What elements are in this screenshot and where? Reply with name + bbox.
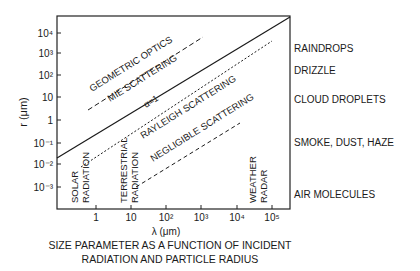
particle-label-air-molecules: AIR MOLECULES xyxy=(294,189,375,200)
x-tick-label: 10 xyxy=(125,212,137,223)
terrestrial-radiation-label-2: RADIATION xyxy=(129,152,140,203)
x-tick-label: 10⁴ xyxy=(229,212,244,223)
y-tick-label: 10⁻³ xyxy=(34,182,54,193)
x-tick-label: 10⁵ xyxy=(264,212,279,223)
solar-radiation-label-1: SOLAR xyxy=(69,171,80,203)
y-tick-label: 10⁻¹ xyxy=(34,138,54,149)
y-tick-label: 10⁻² xyxy=(34,159,54,170)
y-tick-label: 10³ xyxy=(39,48,54,59)
y-axis-label: r (μm) xyxy=(17,97,29,127)
caption-line-1: SIZE PARAMETER AS A FUNCTION OF INCIDENT xyxy=(48,239,292,251)
x-ticks xyxy=(96,205,272,209)
particle-label-cloud-droplets: CLOUD DROPLETS xyxy=(294,94,386,105)
particle-label-raindrops: RAINDROPS xyxy=(294,43,354,54)
y-tick-label: 10 xyxy=(42,92,54,103)
x-tick-label: 10² xyxy=(159,212,174,223)
weather-radar-label-1: WEATHER xyxy=(247,156,258,203)
y-tick-label: 10⁴ xyxy=(38,28,53,39)
alpha-1-label: α=1 xyxy=(142,93,160,110)
y-tick-label: 10² xyxy=(39,70,54,81)
weather-radar-label-2: RADAR xyxy=(258,170,269,203)
solar-radiation-label-2: RADIATION xyxy=(80,152,91,203)
particle-label-drizzle: DRIZZLE xyxy=(294,65,336,76)
x-tick-label: 1 xyxy=(93,212,99,223)
caption-line-2: RADIATION AND PARTICLE RADIUS xyxy=(82,253,259,265)
x-axis-label: λ (μm) xyxy=(152,226,181,237)
size-parameter-diagram: 10⁴ 10³ 10² 10 1 10⁻¹ 10⁻² 10⁻³ r (μm) 1… xyxy=(0,0,420,271)
y-tick-label: 1 xyxy=(47,115,53,126)
x-tick-label: 10³ xyxy=(194,212,209,223)
particle-label-smoke-dust-haze: SMOKE, DUST, HAZE xyxy=(294,137,394,148)
terrestrial-radiation-label-1: TERRESTRIAL xyxy=(118,138,129,203)
